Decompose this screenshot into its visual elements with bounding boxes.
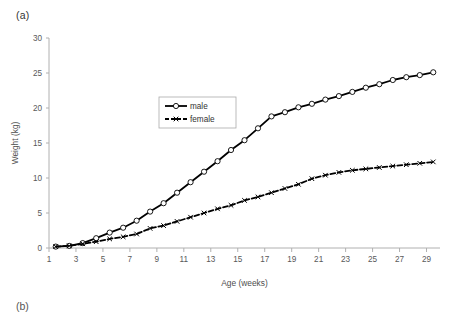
series-female bbox=[53, 160, 435, 249]
data-point-marker bbox=[161, 201, 166, 206]
data-point-marker bbox=[174, 190, 179, 195]
y-tick-label: 20 bbox=[33, 104, 43, 113]
x-tick-label: 25 bbox=[368, 255, 378, 264]
data-point-marker bbox=[309, 101, 314, 106]
data-point-marker bbox=[350, 89, 355, 94]
x-tick-label: 13 bbox=[206, 255, 216, 264]
y-axis-title: Weight (kg) bbox=[10, 121, 20, 164]
x-tick-label: 11 bbox=[180, 255, 189, 264]
data-point-marker bbox=[107, 230, 112, 235]
x-tick-label: 9 bbox=[155, 255, 160, 264]
data-point-marker bbox=[121, 225, 126, 230]
data-point-marker bbox=[269, 114, 274, 119]
data-point-marker bbox=[323, 97, 328, 102]
data-point-marker bbox=[296, 105, 301, 110]
x-tick-label: 27 bbox=[395, 255, 405, 264]
data-point-marker bbox=[201, 169, 206, 174]
series-male bbox=[53, 70, 436, 250]
data-point-marker bbox=[228, 147, 233, 152]
x-tick-label: 19 bbox=[287, 255, 297, 264]
x-tick-label: 1 bbox=[47, 255, 52, 264]
y-tick-label: 5 bbox=[37, 209, 42, 218]
y-tick-label: 25 bbox=[33, 69, 43, 78]
data-point-marker bbox=[336, 94, 341, 99]
x-tick-label: 15 bbox=[233, 255, 243, 264]
data-point-marker bbox=[188, 180, 193, 185]
series-line-male bbox=[56, 72, 434, 246]
data-point-marker bbox=[148, 209, 153, 214]
y-tick-label: 10 bbox=[33, 174, 43, 183]
data-point-marker bbox=[390, 77, 395, 82]
x-tick-label: 17 bbox=[260, 255, 270, 264]
data-point-marker bbox=[431, 70, 436, 75]
data-point-marker bbox=[215, 159, 220, 164]
data-point-marker bbox=[255, 126, 260, 131]
y-tick-label: 15 bbox=[33, 139, 43, 148]
y-tick-label: 30 bbox=[33, 34, 43, 43]
x-tick-label: 7 bbox=[128, 255, 133, 264]
data-point-marker bbox=[417, 73, 422, 78]
next-panel-label: (b) bbox=[16, 300, 29, 312]
legend: malefemale bbox=[159, 97, 236, 128]
data-point-marker bbox=[404, 75, 409, 80]
data-point-marker bbox=[363, 85, 368, 90]
x-tick-label: 5 bbox=[101, 255, 106, 264]
x-tick-label: 29 bbox=[422, 255, 432, 264]
data-point-marker bbox=[282, 110, 287, 115]
x-tick-label: 21 bbox=[314, 255, 324, 264]
data-point-marker bbox=[377, 82, 382, 87]
x-axis-title: Age (weeks) bbox=[221, 278, 268, 288]
legend-label-female: female bbox=[190, 115, 215, 124]
x-tick-label: 23 bbox=[341, 255, 351, 264]
data-point-marker bbox=[242, 138, 247, 143]
x-tick-label: 3 bbox=[74, 255, 79, 264]
y-tick-label: 0 bbox=[37, 244, 42, 253]
legend-label-male: male bbox=[190, 102, 208, 111]
data-point-marker bbox=[173, 103, 178, 108]
data-point-marker bbox=[134, 218, 139, 223]
